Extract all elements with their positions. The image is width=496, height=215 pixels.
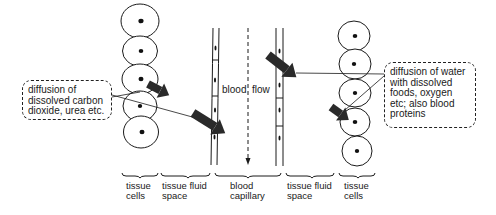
blood-flow-arrow: [246, 28, 251, 165]
callout-co2-urea-diffusion: diffusion of dissolved carbon dioxide, u…: [22, 80, 112, 120]
callout-water-food-oxygen-diffusion: diffusion of water with dissolved foods,…: [384, 62, 476, 128]
region-label-blood-capillary: blood capillary: [230, 181, 265, 201]
diffusion-diagram: diffusion of dissolved carbon dioxide, u…: [0, 0, 496, 215]
left-tissue-cells: [121, 4, 159, 148]
flow-label: flow: [251, 84, 271, 95]
arrow-capillary-to-fluid-icon: [262, 48, 301, 84]
region-label-tissue-fluid-left: tissue fluid space: [162, 181, 207, 201]
blood-label: blood: [221, 84, 247, 95]
region-label-tissue-fluid-right: tissue fluid space: [287, 181, 332, 201]
region-braces: [122, 173, 375, 178]
diffusion-arrows: [144, 48, 353, 141]
arrow-fluid-to-capillary-icon: [188, 105, 230, 140]
region-label-tissue-cells-left: tissue cells: [126, 181, 151, 201]
region-label-tissue-cells-right: tissue cells: [344, 181, 369, 201]
